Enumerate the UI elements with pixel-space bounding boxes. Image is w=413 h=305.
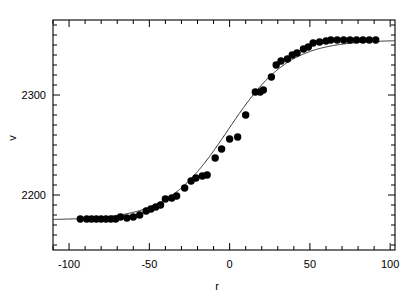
x-axis-label: r [215,280,219,292]
x-tick-label: 50 [304,258,316,270]
data-point [293,49,300,56]
data-point [130,213,137,220]
data-point [192,174,199,181]
data-point [136,211,143,218]
x-tick-label: -100 [58,258,80,270]
data-point [242,111,249,118]
data-point [77,215,84,222]
data-point [211,154,218,161]
data-point [309,39,316,46]
figure-root: -100-50050100 22002300 r v [0,0,413,305]
data-point [327,36,334,43]
data-point [372,36,379,43]
x-tick-label: 0 [227,258,233,270]
x-axis-ticks [53,20,390,250]
x-tick-label: -50 [141,258,157,270]
data-point [316,38,323,45]
data-point [268,73,275,80]
data-point [366,36,373,43]
x-axis-tick-labels: -100-50050100 [58,258,399,270]
plot-frame [53,20,395,250]
y-tick-label: 2300 [22,89,46,101]
data-point [359,36,366,43]
data-point [117,213,124,220]
data-point [260,86,267,93]
x-tick-label: 100 [381,258,399,270]
data-point [340,36,347,43]
data-point [353,36,360,43]
y-tick-label: 2200 [22,189,46,201]
data-point [162,195,169,202]
data-point [277,57,284,64]
data-point [346,36,353,43]
data-point [234,133,241,140]
y-axis-ticks [53,25,395,245]
y-axis-label: v [6,135,18,141]
fit-curve [53,41,395,220]
data-point [218,145,225,152]
data-point [181,184,188,191]
data-point [157,201,164,208]
scatter-plot: -100-50050100 22002300 r v [0,0,413,305]
y-axis-tick-labels: 22002300 [22,89,46,201]
data-point [123,214,130,221]
data-point [203,171,210,178]
data-point [226,135,233,142]
data-point [173,192,180,199]
data-point [334,36,341,43]
